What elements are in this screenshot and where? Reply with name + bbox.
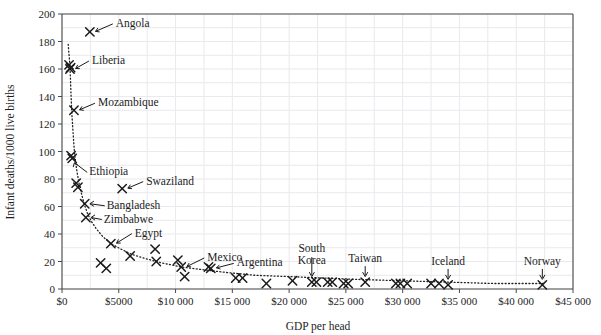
point-label-text: Taiwan bbox=[348, 252, 382, 264]
x-tick-label: $30 000 bbox=[385, 295, 421, 307]
point-label: Swaziland bbox=[146, 175, 194, 187]
y-axis-title: Infant deaths/1000 live births bbox=[4, 84, 16, 220]
point-label: Norway bbox=[524, 255, 561, 268]
point-label-text: Iceland bbox=[431, 255, 465, 267]
point-label: Mozambique bbox=[98, 96, 159, 109]
x-tick-label: $0 bbox=[57, 295, 69, 307]
point-label: Egypt bbox=[135, 227, 163, 240]
point-label-text: South bbox=[298, 242, 325, 254]
y-tick-label: 180 bbox=[39, 36, 56, 48]
x-tick-label: $5000 bbox=[105, 295, 133, 307]
point-label-text: Swaziland bbox=[146, 175, 194, 187]
point-label-text: Bangladesh bbox=[107, 199, 161, 212]
point-label: Angola bbox=[116, 17, 150, 30]
point-label: Zimbabwe bbox=[104, 213, 153, 225]
point-label-text: Angola bbox=[116, 17, 150, 30]
point-label-text: Liberia bbox=[92, 54, 125, 66]
y-tick-label: 160 bbox=[39, 63, 56, 75]
y-tick-label: 80 bbox=[44, 173, 56, 185]
point-label: Argentina bbox=[237, 256, 283, 269]
y-tick-label: 100 bbox=[39, 146, 56, 158]
x-axis-title: GDP per head bbox=[286, 320, 351, 333]
x-tick-label: $10 000 bbox=[158, 295, 194, 307]
point-label: SouthKorea bbox=[298, 242, 326, 266]
point-label: Taiwan bbox=[348, 252, 382, 264]
point-label: Iceland bbox=[431, 255, 465, 267]
chart-canvas: AngolaLiberiaMozambiqueEthiopiaBanglades… bbox=[0, 0, 601, 335]
x-tick-label: $45 000 bbox=[555, 295, 591, 307]
y-tick-label: 20 bbox=[44, 256, 56, 268]
x-tick-label: $20 000 bbox=[271, 295, 307, 307]
x-tick-label: $25 000 bbox=[328, 295, 364, 307]
y-tick-label: 200 bbox=[39, 8, 56, 20]
y-tick-label: 60 bbox=[44, 201, 56, 213]
point-label-text: Mozambique bbox=[98, 96, 159, 109]
x-tick-label: $15 000 bbox=[214, 295, 250, 307]
point-label-text: Argentina bbox=[237, 256, 283, 269]
scatter-chart: AngolaLiberiaMozambiqueEthiopiaBanglades… bbox=[0, 0, 601, 335]
point-label-text: Norway bbox=[524, 255, 561, 268]
x-tick-label: $35 000 bbox=[442, 295, 478, 307]
point-label-text: Egypt bbox=[135, 227, 163, 240]
y-tick-label: 0 bbox=[50, 283, 56, 295]
point-label-text: Korea bbox=[298, 254, 326, 266]
y-tick-label: 120 bbox=[39, 118, 56, 130]
point-label-text: Ethiopia bbox=[89, 165, 128, 178]
y-tick-label: 140 bbox=[39, 91, 56, 103]
y-tick-label: 40 bbox=[44, 228, 56, 240]
point-label: Ethiopia bbox=[89, 165, 128, 178]
x-tick-label: $40 000 bbox=[498, 295, 534, 307]
point-label-text: Zimbabwe bbox=[104, 213, 153, 225]
point-label: Liberia bbox=[92, 54, 125, 66]
point-label: Bangladesh bbox=[107, 199, 161, 212]
